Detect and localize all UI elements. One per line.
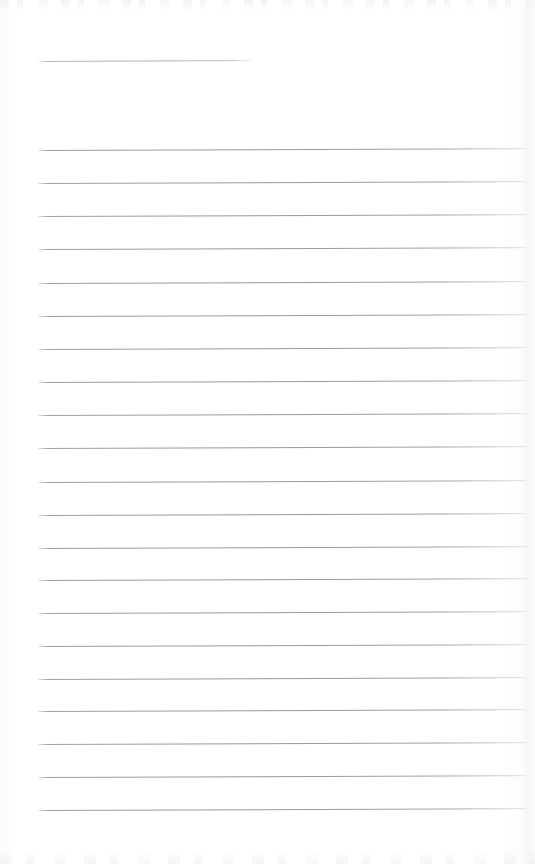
scan-noise-top-icon (0, 0, 535, 11)
rule-line (38, 181, 535, 184)
rule-line (38, 148, 535, 151)
paper-surface (0, 0, 535, 864)
rule-line (38, 380, 535, 383)
rule-line (38, 742, 535, 745)
rule-line (38, 513, 535, 516)
scan-noise-bottom-icon (0, 850, 535, 864)
scanned-page (0, 0, 535, 864)
rule-line (38, 281, 535, 284)
rule-line (38, 314, 535, 317)
rule-line (38, 480, 535, 483)
rule-line (38, 214, 535, 217)
rule-line (38, 677, 535, 680)
page-edge-shadow (523, 0, 535, 864)
rule-line (38, 775, 535, 778)
header-rule (38, 60, 254, 62)
rule-line (38, 611, 535, 614)
rule-line (38, 347, 535, 350)
rule-line (38, 546, 535, 549)
rule-line (38, 247, 535, 250)
rule-line (38, 644, 535, 647)
rule-line (38, 578, 535, 581)
rule-line (38, 413, 535, 416)
rule-line (38, 709, 535, 712)
rule-line (38, 808, 535, 811)
rule-line (38, 446, 535, 449)
